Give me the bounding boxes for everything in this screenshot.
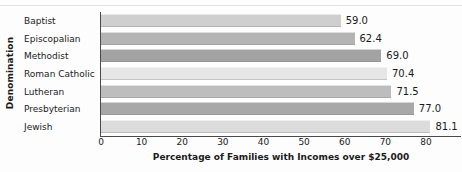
bar [101, 32, 355, 45]
category-label: Presbyterian [18, 101, 99, 119]
bar [101, 85, 391, 98]
x-tick-label: 50 [298, 137, 309, 147]
bar-value-label: 59.0 [346, 15, 368, 26]
bar-value-label: 71.5 [396, 86, 418, 97]
bar-value-label: 62.4 [360, 33, 382, 44]
bar-chart-figure: Denomination Baptist Episcopalian Method… [0, 0, 462, 172]
bar-row: 59.0 [101, 14, 461, 27]
bar-value-label: 77.0 [419, 103, 441, 114]
bar-row: 62.4 [101, 32, 461, 45]
y-axis-title: Denomination [2, 12, 18, 134]
bar-row: 77.0 [101, 102, 461, 115]
bar-value-label: 81.1 [435, 121, 457, 132]
bar-value-label: 69.0 [386, 50, 408, 61]
bar [101, 120, 430, 133]
x-tick-label: 0 [98, 137, 104, 147]
figure-top-rule [0, 5, 462, 6]
x-axis-tick-labels: 01020304050607080 [100, 137, 462, 151]
category-label: Roman Catholic [18, 65, 99, 83]
bar-value-label: 70.4 [392, 68, 414, 79]
bar [101, 67, 387, 80]
category-label: Baptist [18, 12, 99, 30]
y-axis-title-text: Denomination [5, 37, 15, 109]
bar-row: 70.4 [101, 67, 461, 80]
x-tick-label: 20 [177, 137, 188, 147]
x-tick-label: 10 [136, 137, 147, 147]
bar-row: 81.1 [101, 120, 461, 133]
category-label: Jewish [18, 118, 99, 136]
category-axis-labels: Baptist Episcopalian Methodist Roman Cat… [18, 12, 99, 136]
bar [101, 14, 341, 27]
bar [101, 102, 414, 115]
x-tick-label: 70 [380, 137, 391, 147]
bar-series: 59.0 62.4 69.0 70.4 71.5 77.0 [101, 12, 461, 136]
x-tick-label: 60 [339, 137, 350, 147]
category-label: Lutheran [18, 83, 99, 101]
bar [101, 49, 381, 62]
category-label: Methodist [18, 47, 99, 65]
bar-row: 69.0 [101, 49, 461, 62]
x-tick-label: 30 [217, 137, 228, 147]
x-tick-label: 80 [420, 137, 431, 147]
category-label: Episcopalian [18, 30, 99, 48]
bar-row: 71.5 [101, 85, 461, 98]
x-tick-label: 40 [258, 137, 269, 147]
x-axis-title: Percentage of Families with Incomes over… [100, 152, 462, 162]
plot-area: 59.0 62.4 69.0 70.4 71.5 77.0 [100, 12, 461, 136]
